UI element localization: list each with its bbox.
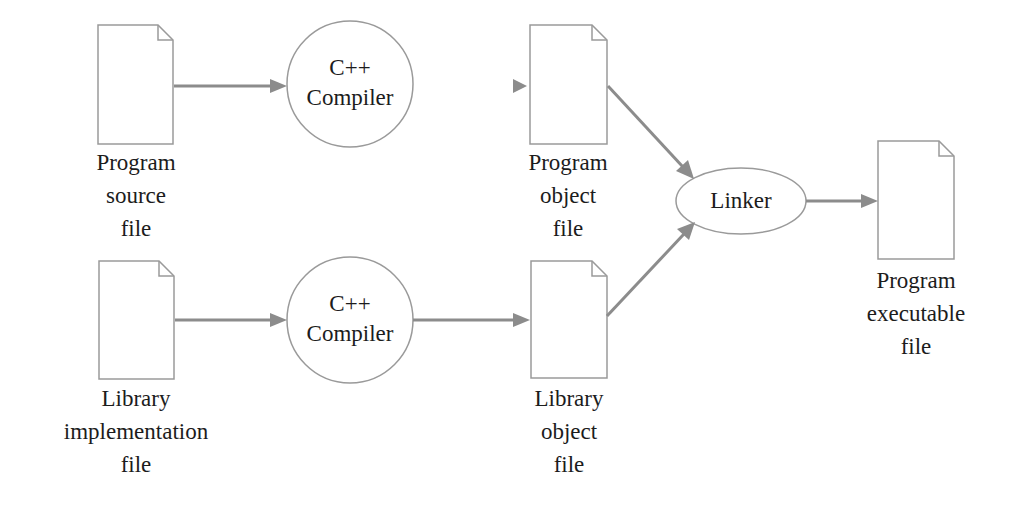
program-executable-file-label: Program executable file	[836, 264, 996, 363]
linker-label: Linker	[676, 186, 806, 216]
program-exec-line-1: Program	[836, 264, 996, 297]
program-source-line-2: source	[56, 179, 216, 212]
library-object-line-3: file	[489, 448, 649, 481]
compiler-bottom-line-1: C++	[287, 289, 413, 319]
compiler-top-line-1: C++	[287, 53, 413, 83]
program-exec-line-3: file	[836, 330, 996, 363]
program-executable-file-icon	[878, 141, 954, 259]
program-object-line-1: Program	[488, 146, 648, 179]
compiler-top-label: C++ Compiler	[287, 53, 413, 113]
library-impl-line-2: implementation	[36, 415, 236, 448]
compiler-top-line-2: Compiler	[287, 83, 413, 113]
edge-linker-to-executable	[806, 194, 878, 208]
edge-source-to-compiler	[174, 79, 287, 93]
program-object-line-2: object	[488, 179, 648, 212]
library-implementation-file-label: Library implementation file	[36, 382, 236, 481]
library-object-file-icon	[531, 261, 607, 378]
library-object-line-2: object	[489, 415, 649, 448]
program-exec-line-2: executable	[836, 297, 996, 330]
edge-libimpl-to-compiler	[175, 313, 287, 327]
compilation-diagram: C++ Compiler C++ Compiler Linker Program…	[0, 0, 1011, 511]
program-source-file-label: Program source file	[56, 146, 216, 245]
library-impl-line-1: Library	[36, 382, 236, 415]
program-object-file-label: Program object file	[488, 146, 648, 245]
library-object-line-1: Library	[489, 382, 649, 415]
incoming-arrowhead-icon	[513, 79, 527, 93]
program-source-line-3: file	[56, 212, 216, 245]
compiler-bottom-label: C++ Compiler	[287, 289, 413, 349]
program-source-line-1: Program	[56, 146, 216, 179]
program-object-file-icon	[530, 25, 607, 144]
edge-compiler-to-libobject	[413, 313, 530, 327]
program-object-line-3: file	[488, 212, 648, 245]
library-impl-line-3: file	[36, 448, 236, 481]
program-source-file-icon	[98, 25, 173, 144]
compiler-bottom-line-2: Compiler	[287, 319, 413, 349]
library-object-file-label: Library object file	[489, 382, 649, 481]
linker-line-1: Linker	[676, 186, 806, 216]
library-implementation-file-icon	[99, 261, 174, 379]
